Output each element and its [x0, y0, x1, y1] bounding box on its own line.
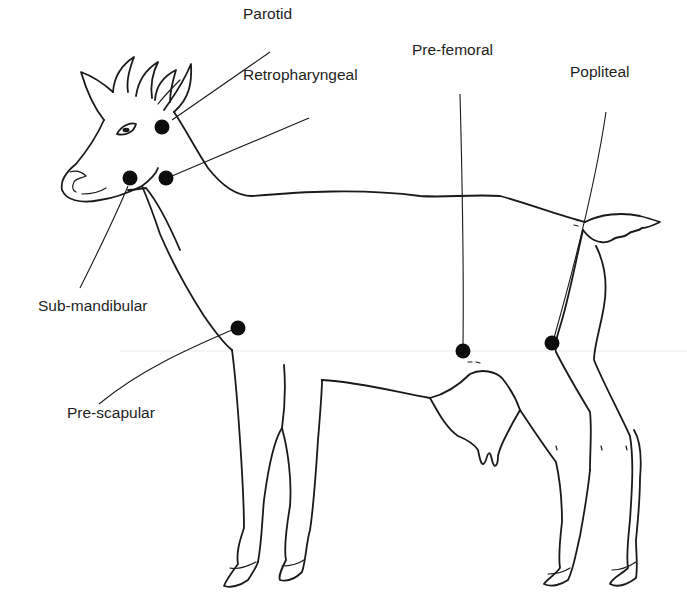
ear-right: [164, 64, 191, 112]
label-pre-scapular: Pre-scapular: [67, 405, 155, 421]
goat-lymph-node-diagram: Parotid Retropharyngeal Sub-mandibular P…: [0, 0, 687, 612]
leader-retropharyngeal: [172, 118, 309, 176]
hind-leg-1: [520, 410, 590, 586]
udder: [430, 398, 520, 466]
node-parotid: [155, 120, 170, 135]
hind-leg-2: [594, 246, 641, 586]
leader-pre-femoral: [460, 94, 463, 346]
node-pre-femoral: [456, 344, 471, 359]
lymph-nodes: [123, 120, 560, 359]
belly: [322, 371, 520, 410]
label-sub-mandibular: Sub-mandibular: [38, 298, 147, 314]
leader-parotid: [172, 52, 270, 120]
goat-outline: [62, 57, 660, 587]
leader-pre-scapular: [99, 330, 232, 404]
node-popliteal: [545, 336, 560, 351]
label-pre-femoral: Pre-femoral: [412, 42, 493, 58]
horn-1: [113, 57, 134, 92]
front-leg-1: [224, 350, 258, 587]
label-retropharyngeal: Retropharyngeal: [243, 67, 358, 83]
tail: [583, 214, 660, 242]
node-retropharyngeal: [159, 171, 174, 186]
ear-left: [81, 72, 113, 120]
front-leg-2: [279, 365, 322, 581]
chest-front: [142, 186, 232, 350]
label-popliteal: Popliteal: [570, 64, 629, 80]
back-line: [174, 112, 585, 222]
node-sub-mandibular: [123, 171, 138, 186]
horn-2: [136, 62, 158, 98]
node-pre-scapular: [231, 321, 246, 336]
label-parotid: Parotid: [243, 6, 292, 22]
leader-popliteal: [554, 112, 606, 338]
